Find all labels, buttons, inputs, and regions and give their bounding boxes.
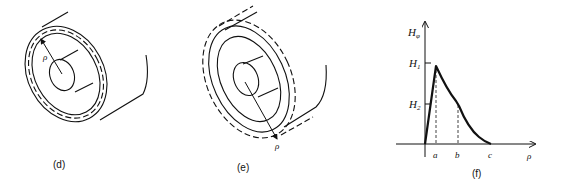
cable-top-edge [42, 12, 68, 27]
panel-e-coax-outer-path: ρ [185, 5, 327, 153]
inner-bottom-edge-e [258, 88, 278, 97]
inner-bottom-edge [75, 83, 93, 92]
rho-label-d: ρ [42, 52, 48, 62]
amperian-path-dashed-outer [185, 5, 314, 153]
tick-label-c: c [488, 150, 492, 160]
y-axis-label: Hφ [407, 26, 420, 40]
h1-label: H1 [408, 57, 420, 71]
panel-label-d: (d) [53, 159, 65, 170]
h2-label: H2 [408, 98, 421, 112]
x-axis-label: ρ [526, 151, 532, 161]
cable-bottom-edge-e [284, 65, 326, 127]
outer-conductor-outer-e [193, 13, 306, 145]
inner-conductor [45, 56, 78, 94]
inner-conductor-e [229, 59, 263, 99]
amperian-path-dashed [14, 17, 119, 132]
panel-f-plot: Hφ H1 H2 a b c ρ [396, 22, 535, 161]
tick-label-b: b [455, 150, 460, 160]
inner-top-edge-e [243, 56, 263, 64]
outer-conductor-inner-e [205, 26, 294, 131]
tick-label-a: a [433, 150, 438, 160]
inner-top-edge [60, 50, 78, 60]
dashed-top-edge [219, 6, 253, 26]
outer-conductor-outer [9, 12, 123, 136]
panel-label-f: (f) [472, 168, 481, 179]
rho-label-e: ρ [274, 141, 280, 151]
panel-label-e: (e) [237, 162, 249, 173]
panel-d-coax-inner-path: ρ [9, 12, 147, 136]
figure-canvas: ρ (d) ρ (e) Hφ H1 H2 [0, 0, 565, 187]
